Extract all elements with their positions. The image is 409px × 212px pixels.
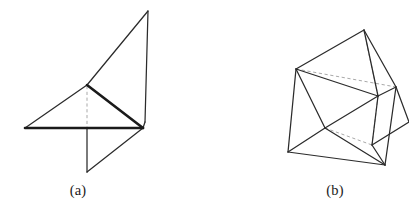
solid-edge [378,87,396,96]
solid-edge [296,30,364,69]
solid-edge [325,96,378,128]
figure-a-solid-edges [25,11,148,172]
solid-edge [372,145,385,165]
figure-illustration [0,0,409,212]
solid-edge [288,128,325,152]
figure-a-bold-edges [25,85,143,128]
solid-edge [364,30,378,96]
solid-edge [372,96,378,145]
figure-b-group [288,30,409,165]
solid-edge [288,152,385,165]
solid-edge [288,69,296,152]
solid-edge [296,69,325,128]
solid-edge [296,69,378,96]
figure-panel: (a) (b) [0,0,409,212]
solid-edge [396,87,409,122]
solid-edge [325,128,385,165]
figure-b-solid-edges [288,30,409,165]
figure-b-hidden-edges [296,31,396,145]
figure-b-caption: (b) [305,182,365,199]
solid-edge [25,85,87,128]
solid-edge [385,87,396,165]
hidden-edge [296,69,396,87]
solid-edge [145,11,148,122]
figure-a-group [25,11,148,172]
solid-edge [364,30,396,87]
figure-a-caption: (a) [48,182,108,199]
solid-edge [87,11,148,85]
bold-crease-edge [87,85,143,128]
solid-edge [87,128,143,172]
